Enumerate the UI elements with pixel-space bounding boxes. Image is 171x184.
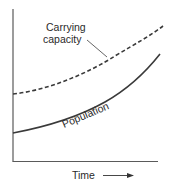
population-label: Population — [60, 99, 111, 129]
population-curve — [13, 54, 160, 133]
chart-svg: Carrying capacity Population Time — [0, 0, 171, 184]
carrying-capacity-curve — [13, 26, 163, 94]
x-axis-label: Time — [72, 169, 95, 181]
carrying-capacity-label-line2: capacity — [43, 33, 82, 45]
arrow-right-icon — [127, 173, 134, 178]
carrying-capacity-leader-line — [87, 40, 107, 57]
chart-container: Carrying capacity Population Time — [0, 0, 171, 184]
carrying-capacity-label-line1: Carrying — [46, 21, 86, 33]
